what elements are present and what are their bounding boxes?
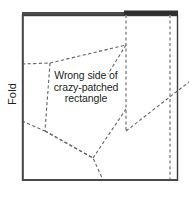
fold-diagram-figure: Fold Wrong side of crazy-patched rectang… (0, 0, 189, 202)
patch-caption-line-3: rectangle (44, 93, 128, 105)
patch-caption: Wrong side of crazy-patched rectangle (44, 70, 128, 105)
fold-label: Fold (6, 69, 18, 119)
patch-caption-line-1: Wrong side of (44, 70, 128, 82)
